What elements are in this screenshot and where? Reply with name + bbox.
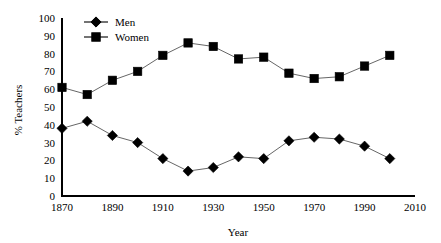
chart-canvas: 0102030405060708090100 18701890191019301… [0, 0, 441, 243]
data-point [133, 138, 143, 148]
line-chart: 0102030405060708090100 18701890191019301… [0, 0, 441, 243]
x-tick-label: 1930 [202, 201, 225, 213]
data-point [260, 53, 268, 61]
data-point [233, 152, 243, 162]
series-women [58, 39, 394, 99]
data-point [82, 116, 92, 126]
series-line [62, 43, 390, 95]
x-tick-label: 1970 [303, 201, 326, 213]
y-tick-label: 70 [44, 65, 56, 77]
x-tick-label: 1870 [51, 201, 74, 213]
series-men [57, 116, 395, 176]
data-point [208, 162, 218, 172]
legend-item-men: Men [84, 16, 136, 28]
x-tick-label: 1890 [101, 201, 124, 213]
y-tick-label: 50 [44, 101, 56, 113]
x-tick-label: 1910 [152, 201, 175, 213]
y-tick-label: 80 [44, 48, 56, 60]
data-point [159, 51, 167, 59]
y-tick-label: 90 [44, 30, 56, 42]
y-tick-label: 100 [39, 12, 56, 24]
y-tick-label: 60 [44, 83, 56, 95]
data-point [386, 51, 394, 59]
data-point [284, 136, 294, 146]
y-tick-label: 40 [44, 119, 56, 131]
x-tick-label: 1990 [354, 201, 377, 213]
data-point [57, 123, 67, 133]
data-point [360, 62, 368, 70]
data-point [285, 69, 293, 77]
legend-label: Women [115, 31, 149, 43]
axis-lines [62, 18, 415, 196]
x-axis-tick-labels: 18701890191019301950197019902010 [51, 201, 427, 213]
series-line [62, 121, 390, 171]
y-axis-title: % Teachers [12, 85, 24, 136]
y-tick-label: 30 [44, 137, 56, 149]
data-point [209, 42, 217, 50]
y-tick-label: 10 [44, 172, 56, 184]
legend-marker-diamond [91, 17, 101, 27]
data-point [108, 76, 116, 84]
data-point [158, 154, 168, 164]
chart-legend: MenWomen [84, 16, 149, 43]
data-point [310, 74, 318, 82]
legend-item-women: Women [84, 31, 149, 43]
data-point [335, 73, 343, 81]
y-tick-label: 20 [44, 154, 56, 166]
y-axis-tick-labels: 0102030405060708090100 [39, 12, 56, 202]
x-tick-label: 1950 [253, 201, 276, 213]
data-point [184, 39, 192, 47]
data-point [259, 154, 269, 164]
x-axis-title: Year [228, 226, 249, 238]
data-point [359, 141, 369, 151]
data-point [234, 55, 242, 63]
data-point [385, 154, 395, 164]
legend-marker-square [92, 33, 100, 41]
data-point [83, 90, 91, 98]
data-point [334, 134, 344, 144]
data-series-layer [57, 39, 395, 176]
x-tick-label: 2010 [404, 201, 427, 213]
data-point [58, 83, 66, 91]
data-point [309, 132, 319, 142]
data-point [183, 166, 193, 176]
data-point [107, 130, 117, 140]
legend-label: Men [115, 16, 136, 28]
data-point [133, 67, 141, 75]
